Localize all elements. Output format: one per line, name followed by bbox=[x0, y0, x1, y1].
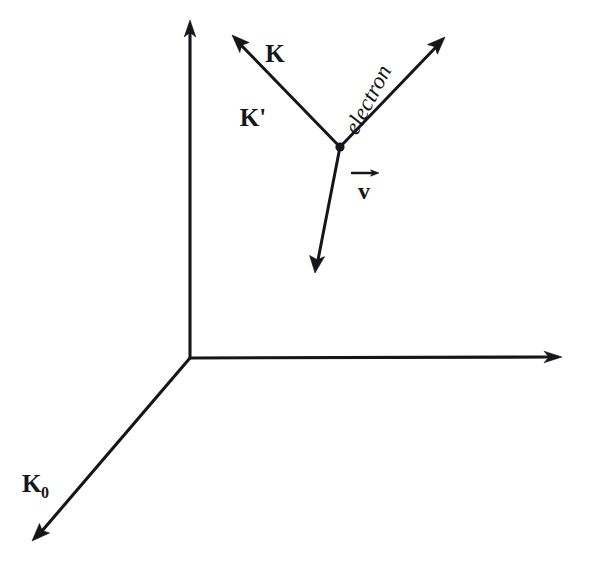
vector-diagram-figure: K K' electron v K 0 bbox=[0, 0, 590, 570]
scattering-vertex-dot bbox=[335, 142, 344, 151]
velocity-vector bbox=[310, 147, 340, 273]
velocity-vector-line bbox=[318, 147, 340, 260]
horizontal-axis-line bbox=[190, 357, 550, 358]
label-velocity-group: v bbox=[352, 170, 379, 204]
label-electron-group: electron bbox=[339, 61, 396, 139]
label-velocity: v bbox=[358, 178, 370, 204]
label-k-zero-subscript: 0 bbox=[41, 484, 49, 501]
horizontal-axis bbox=[190, 351, 562, 363]
diagram-canvas: K K' electron v K 0 bbox=[0, 0, 590, 570]
label-k-zero-group: K 0 bbox=[22, 470, 49, 501]
label-k-zero: K bbox=[22, 470, 42, 497]
label-k-incident: K bbox=[265, 40, 285, 67]
vertical-axis bbox=[184, 20, 196, 358]
depth-axis bbox=[32, 358, 190, 541]
label-k-scattered: K' bbox=[240, 104, 266, 131]
k-prime-vector-line bbox=[241, 45, 340, 147]
label-electron: electron bbox=[339, 61, 396, 139]
depth-axis-line bbox=[42, 358, 190, 531]
